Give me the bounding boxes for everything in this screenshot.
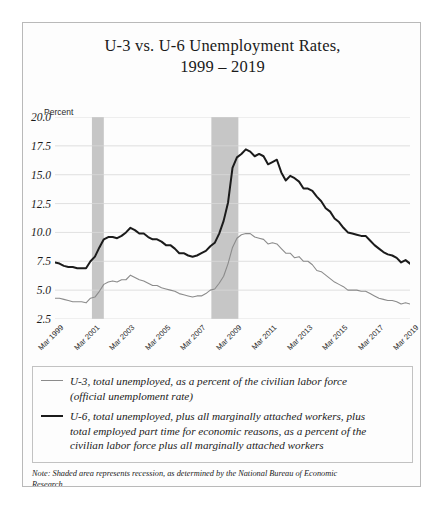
title-line-2: 1999 – 2019	[23, 56, 421, 77]
chart-legend: U-3, total unemployed, as a percent of t…	[32, 366, 413, 463]
chart-figure: U-3 vs. U-6 Unemployment Rates, 1999 – 2…	[22, 22, 421, 487]
legend-label-u6: U-6, total unemployed, plus all marginal…	[70, 409, 366, 453]
x-tick-label: Mar 2017	[356, 323, 385, 352]
legend-item-u6: U-6, total unemployed, plus all marginal…	[41, 409, 404, 453]
legend-u3-line-1: U-3, total unemployed, as a percent of t…	[70, 375, 347, 387]
x-tick-label: Mar 2011	[250, 323, 279, 352]
x-tick-label: Mar 2001	[72, 323, 101, 352]
x-tick-label: Mar 2013	[285, 323, 314, 352]
legend-u3-line-2: (official unemploment rate)	[70, 390, 193, 402]
legend-line-u3-icon	[41, 380, 63, 381]
note-text-line-2: Research.	[32, 480, 413, 487]
x-tick-label: Mar 2005	[143, 323, 172, 352]
legend-u6-line-1: U-6, total unemployed, plus all marginal…	[70, 410, 365, 422]
chart-title: U-3 vs. U-6 Unemployment Rates, 1999 – 2…	[23, 35, 421, 77]
x-tick-label: Mar 2015	[320, 323, 349, 352]
y-tick-label: 20.0	[31, 111, 51, 123]
x-tick-label: Mar 2003	[107, 323, 136, 352]
recession-band	[92, 117, 104, 319]
legend-u6-line-2: total employed part time for economic re…	[70, 425, 366, 437]
legend-line-u6-icon	[41, 415, 63, 417]
y-tick-label: 15.0	[31, 169, 51, 181]
x-tick-label: Mar 2009	[214, 323, 243, 352]
y-tick-label: 5.0	[37, 284, 51, 296]
x-tick-label: Mar 2019	[391, 323, 420, 352]
y-tick-label: 12.5	[31, 198, 51, 210]
plot-area: 20.017.515.012.510.07.55.02.5 Mar 1999Ma…	[55, 117, 410, 319]
y-tick-label: 17.5	[31, 140, 51, 152]
x-tick-label: Mar 1999	[36, 323, 65, 352]
title-line-1: U-3 vs. U-6 Unemployment Rates,	[23, 35, 421, 56]
y-tick-label: 7.5	[37, 255, 51, 267]
chart-canvas	[55, 117, 410, 319]
y-tick-label: 2.5	[37, 313, 51, 325]
legend-u6-line-3: civilian labor force plus all marginally…	[70, 439, 324, 451]
y-tick-label: 10.0	[31, 226, 51, 238]
chart-notes: Note: Shaded area represents recession, …	[32, 469, 413, 487]
legend-label-u3: U-3, total unemployed, as a percent of t…	[70, 374, 347, 403]
x-tick-label: Mar 2007	[178, 323, 207, 352]
legend-item-u3: U-3, total unemployed, as a percent of t…	[41, 374, 404, 403]
note-text-line-1: Note: Shaded area represents recession, …	[32, 469, 413, 480]
